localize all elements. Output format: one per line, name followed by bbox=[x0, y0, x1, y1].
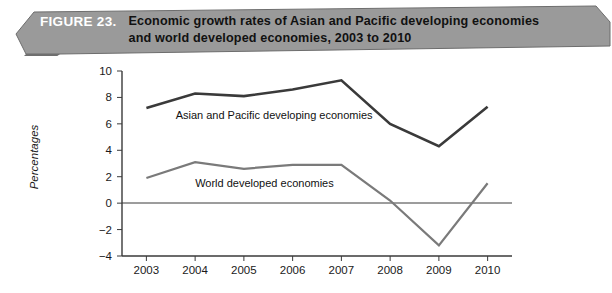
x-tick-label: 2009 bbox=[426, 264, 452, 276]
y-tick-label: −2 bbox=[99, 224, 112, 236]
banner-text-group: FIGURE 23. Economic growth rates of Asia… bbox=[40, 13, 580, 57]
figure-title-line-1: Economic growth rates of Asian and Pacif… bbox=[129, 14, 540, 28]
x-axis-ticks: 20032004200520062007200820092010 bbox=[134, 256, 501, 276]
series-annotation-label: Asian and Pacific developing economies bbox=[176, 109, 373, 121]
y-tick-label: 0 bbox=[106, 197, 112, 209]
data-series-layer bbox=[146, 80, 487, 245]
series-line bbox=[146, 162, 487, 245]
y-axis-ticks: −4−20246810 bbox=[99, 65, 122, 262]
y-tick-label: 6 bbox=[106, 118, 112, 130]
y-tick-label: −4 bbox=[99, 250, 113, 262]
x-tick-label: 2005 bbox=[231, 264, 257, 276]
x-tick-label: 2006 bbox=[280, 264, 306, 276]
y-tick-label: 8 bbox=[106, 91, 112, 103]
x-tick-label: 2008 bbox=[377, 264, 403, 276]
x-tick-label: 2007 bbox=[329, 264, 355, 276]
y-tick-label: 10 bbox=[99, 65, 112, 77]
series-annotation-label: World developed economies bbox=[195, 177, 334, 189]
series-annotations: Asian and Pacific developing economiesWo… bbox=[176, 109, 373, 190]
figure-number-label: FIGURE 23. bbox=[40, 13, 117, 29]
x-tick-label: 2004 bbox=[182, 264, 208, 276]
figure-title: Economic growth rates of Asian and Pacif… bbox=[129, 13, 540, 46]
x-tick-label: 2010 bbox=[475, 264, 501, 276]
figure-banner: FIGURE 23. Economic growth rates of Asia… bbox=[0, 4, 612, 56]
figure-title-line-2: and world developed economies, 2003 to 2… bbox=[129, 30, 540, 47]
chart-canvas: −4−20246810 2003200420052006200720082009… bbox=[0, 56, 612, 293]
line-chart: Percentages −4−20246810 2003200420052006… bbox=[0, 56, 612, 293]
y-tick-label: 2 bbox=[106, 171, 112, 183]
y-tick-label: 4 bbox=[106, 144, 113, 156]
x-tick-label: 2003 bbox=[134, 264, 160, 276]
